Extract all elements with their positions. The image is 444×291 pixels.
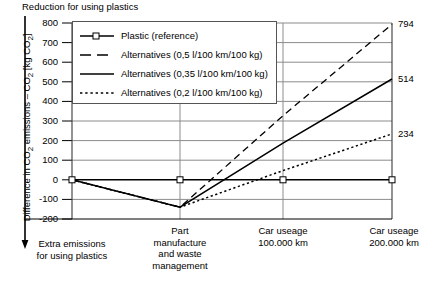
legend-item-alternatives-035: Alternatives (0,35 l/100 km/100 kg) xyxy=(73,64,276,83)
series-marker-plastic-3 xyxy=(389,177,395,183)
x-axis-label-2-line-1: 100.000 km xyxy=(233,237,333,249)
legend-item-alternatives-05: Alternatives (0,5 l/100 km/100 kg) xyxy=(73,45,276,64)
x-axis-label-1-line-0: Part xyxy=(130,225,230,237)
x-axis-label-3-line-1: 200.000 km xyxy=(344,237,444,249)
end-label-794: 794 xyxy=(398,19,414,29)
legend-label-alternatives-035: Alternatives (0,35 l/100 km/100 kg) xyxy=(121,68,268,79)
series-line-alternatives-02 xyxy=(72,134,392,207)
chart-container: Reduction for using plastics Difference … xyxy=(0,0,444,291)
series-marker-plastic-1 xyxy=(177,177,183,183)
chart-legend: Plastic (reference) Alternatives (0,5 l/… xyxy=(72,21,277,104)
series-marker-plastic-2 xyxy=(280,177,286,183)
legend-label-plastic-reference: Plastic (reference) xyxy=(121,30,198,41)
x-axis-label-1: Part manufacture and waste management xyxy=(130,225,230,271)
legend-swatch-dotted-icon xyxy=(80,87,114,99)
series-marker-plastic-0 xyxy=(69,177,75,183)
legend-swatch-solid-marker-icon xyxy=(80,30,114,42)
x-axis-label-0-line-1: for using plastics xyxy=(10,250,134,262)
end-label-514: 514 xyxy=(398,74,414,84)
x-axis-label-3: Car useage 200.000 km xyxy=(344,225,444,248)
end-label-234: 234 xyxy=(398,129,414,139)
legend-item-alternatives-02: Alternatives (0,2 l/100 km/100 kg) xyxy=(73,83,276,102)
x-axis-label-0-line-0: Extra emissions xyxy=(10,238,134,250)
legend-swatch-solid-icon xyxy=(80,68,114,80)
x-axis-label-1-line-1: manufacture xyxy=(130,237,230,249)
x-axis-label-3-line-0: Car useage xyxy=(344,225,444,237)
legend-item-plastic-reference: Plastic (reference) xyxy=(73,26,276,45)
x-axis-label-0: Extra emissions for using plastics xyxy=(10,238,134,261)
legend-swatch-dashed-icon xyxy=(80,49,114,61)
legend-label-alternatives-05: Alternatives (0,5 l/100 km/100 kg) xyxy=(121,49,263,60)
x-axis-label-2: Car useage 100.000 km xyxy=(233,225,333,248)
x-axis-label-1-line-3: management xyxy=(130,260,230,272)
x-axis-label-1-line-2: and waste xyxy=(130,248,230,260)
x-axis-label-2-line-0: Car useage xyxy=(233,225,333,237)
legend-label-alternatives-02: Alternatives (0,2 l/100 km/100 kg) xyxy=(121,87,263,98)
